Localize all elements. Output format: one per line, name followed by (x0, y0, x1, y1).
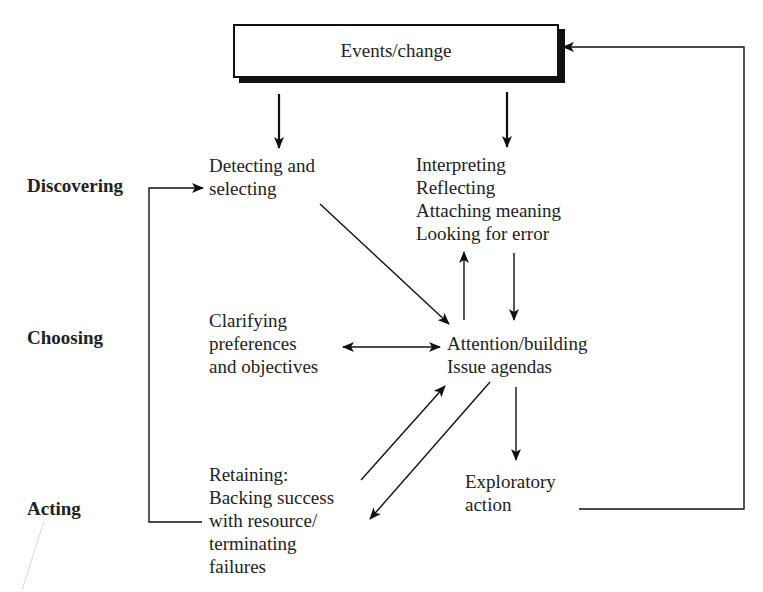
node-interpreting-line: Reflecting (416, 176, 561, 199)
events-change-box: Events/change (233, 24, 559, 78)
node-attention: Attention/building Issue agendas (447, 332, 587, 378)
scan-artifact-line (22, 521, 44, 590)
node-detecting: Detecting and selecting (209, 154, 315, 200)
node-retaining-line: failures (209, 555, 334, 578)
stage-choosing: Choosing (27, 326, 103, 349)
node-clarifying-line: preferences (209, 332, 318, 355)
node-retaining-line: Retaining: (209, 463, 334, 486)
node-attention-line: Issue agendas (447, 355, 587, 378)
node-interpreting-line: Interpreting (416, 153, 561, 176)
node-detecting-line: Detecting and (209, 154, 315, 177)
node-clarifying: Clarifying preferences and objectives (209, 309, 318, 378)
node-retaining: Retaining: Backing success with resource… (209, 463, 334, 578)
node-interpreting-line: Attaching meaning (416, 199, 561, 222)
node-retaining-line: terminating (209, 532, 334, 555)
node-exploratory-line: Exploratory (465, 470, 556, 493)
arrow-retaining-to-attention (361, 386, 445, 480)
node-interpreting: Interpreting Reflecting Attaching meanin… (416, 153, 561, 245)
node-attention-line: Attention/building (447, 332, 587, 355)
diagram-connectors (0, 0, 763, 592)
node-interpreting-line: Looking for error (416, 222, 561, 245)
events-change-label: Events/change (341, 40, 452, 62)
feedback-retaining-to-detecting (149, 188, 203, 522)
node-clarifying-line: Clarifying (209, 309, 318, 332)
node-detecting-line: selecting (209, 177, 315, 200)
stage-acting: Acting (27, 497, 81, 520)
feedback-exploratory-to-events (563, 47, 744, 509)
stage-discovering: Discovering (27, 174, 123, 197)
node-exploratory: Exploratory action (465, 470, 556, 516)
node-clarifying-line: and objectives (209, 355, 318, 378)
node-retaining-line: Backing success (209, 486, 334, 509)
node-exploratory-line: action (465, 493, 556, 516)
node-retaining-line: with resource/ (209, 509, 334, 532)
